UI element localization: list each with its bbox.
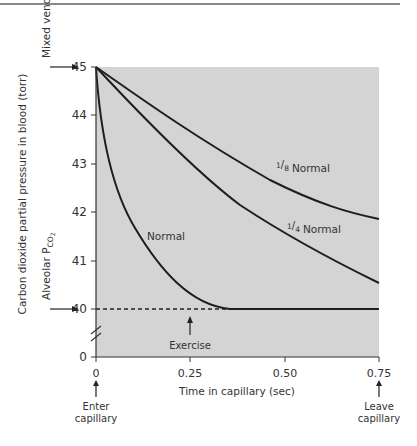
y-axis-label: Carbon dioxide partial pressure in blood… [16, 74, 28, 315]
leave-capillary-annotation: Leave capillary [358, 380, 401, 424]
y-axis-break-icon [90, 326, 102, 341]
ytick-label: 0 [79, 350, 87, 364]
x-ticks [96, 357, 379, 362]
x-axis-label: Time in capillary (sec) [178, 385, 295, 397]
xtick-label: 0 [93, 367, 100, 380]
mixed-venous-label: Mixed venous P [40, 0, 52, 58]
enter-label-line2: capillary [75, 413, 118, 424]
curve-label-normal: Normal [147, 230, 185, 242]
alveolar-label: Alveolar P [40, 247, 52, 300]
svg-text:1/4Normal: 1/4Normal [287, 220, 341, 235]
xtick-label: 0.50 [273, 367, 298, 380]
ytick-label: 43 [72, 157, 87, 171]
y-ticks [91, 67, 96, 357]
curve-label-one-eighth: 1/8Normal [276, 159, 330, 174]
exercise-label: Exercise [169, 340, 211, 351]
enter-capillary-annotation: Enter capillary [75, 380, 118, 424]
alveolar-annotation: Alveolar PCO2 [40, 232, 79, 312]
pco2-subscript: CO [46, 236, 55, 247]
svg-text:Mixed venous PCO2: Mixed venous PCO2 [40, 0, 56, 58]
pco2-subscript-2: 2 [49, 232, 56, 236]
fraction-denominator: 8 [284, 164, 289, 173]
ytick-label: 41 [72, 254, 87, 268]
ytick-label: 42 [72, 205, 87, 219]
ytick-label: 44 [72, 108, 87, 122]
xtick-label: 0.75 [367, 367, 392, 380]
leave-label-line2: capillary [358, 413, 401, 424]
svg-text:1/8Normal: 1/8Normal [276, 159, 330, 174]
fraction-text: Normal [292, 162, 330, 174]
xtick-label: 0.25 [178, 367, 203, 380]
curve-label-one-quarter: 1/4Normal [287, 220, 341, 235]
co2-capillary-chart: 45 44 43 42 41 40 0 0 0.25 0.50 0.75 Tim… [0, 0, 417, 446]
leave-label-line1: Leave [364, 401, 394, 412]
fraction-denominator: 4 [295, 225, 300, 234]
enter-label-line1: Enter [83, 401, 111, 412]
fraction-text: Normal [303, 223, 341, 235]
arrowhead-icon [376, 380, 382, 386]
svg-text:Alveolar PCO2: Alveolar PCO2 [40, 232, 56, 300]
arrowhead-icon [93, 380, 99, 386]
